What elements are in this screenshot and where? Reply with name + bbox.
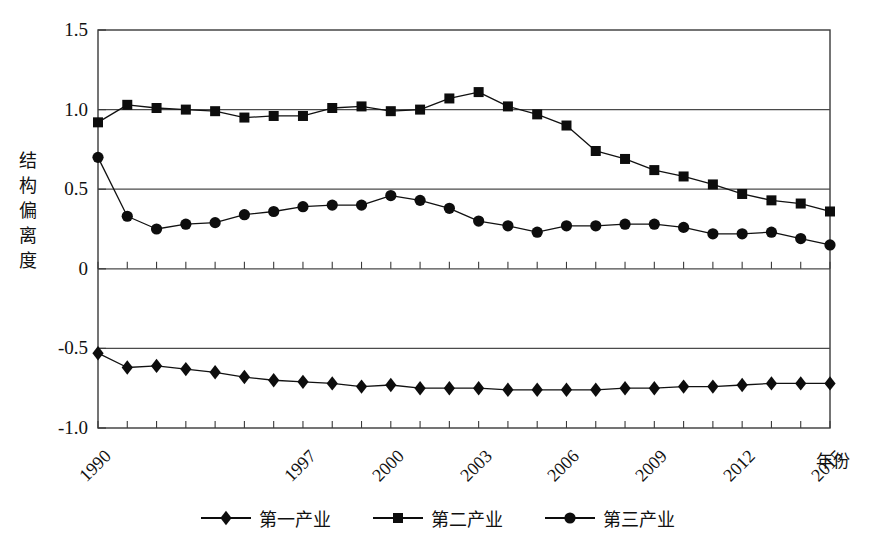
circle-marker [92, 152, 103, 163]
diamond-marker [385, 378, 396, 392]
diamond-marker [180, 362, 191, 376]
diamond-marker [414, 381, 425, 395]
circle-marker [210, 217, 221, 228]
square-marker [679, 171, 689, 181]
square-marker [444, 93, 454, 103]
diamond-marker [220, 511, 231, 525]
circle-marker [356, 200, 367, 211]
circle-marker [649, 219, 660, 230]
circle-marker [707, 228, 718, 239]
square-marker [649, 165, 659, 175]
legend-label: 第二产业 [431, 505, 503, 531]
diamond-marker [766, 376, 777, 390]
diamond-marker [268, 373, 279, 387]
diamond-marker [561, 383, 572, 397]
legend-item-2[interactable]: 第二产业 [371, 505, 503, 531]
circle-marker [180, 219, 191, 230]
chart-figure: 结构偏离度 1.51.00.50-0.5-1.0 199019972000200… [0, 0, 874, 547]
circle-marker [268, 206, 279, 217]
diamond-marker [239, 370, 250, 384]
square-marker [766, 195, 776, 205]
diamond-marker [795, 376, 806, 390]
circle-marker [239, 209, 250, 220]
diamond-legend-icon [199, 508, 253, 528]
square-marker [474, 87, 484, 97]
plot-area [0, 0, 874, 547]
square-marker [122, 100, 132, 110]
circle-legend-icon [543, 508, 597, 528]
square-marker [152, 103, 162, 113]
circle-marker [122, 211, 133, 222]
chart-legend: 第一产业第二产业第三产业 [0, 505, 874, 531]
square-marker [298, 111, 308, 121]
diamond-marker [532, 383, 543, 397]
circle-marker [795, 233, 806, 244]
circle-marker [385, 190, 396, 201]
legend-item-3[interactable]: 第三产业 [543, 505, 675, 531]
diamond-marker [707, 379, 718, 393]
series-line [98, 353, 830, 390]
circle-marker [327, 200, 338, 211]
circle-marker [766, 227, 777, 238]
circle-marker [824, 239, 835, 250]
square-marker [327, 103, 337, 113]
diamond-marker [824, 376, 835, 390]
square-legend-icon [371, 508, 425, 528]
square-marker [503, 101, 513, 111]
diamond-marker [678, 379, 689, 393]
diamond-marker [297, 375, 308, 389]
diamond-marker [327, 376, 338, 390]
circle-marker [561, 220, 572, 231]
circle-marker [590, 220, 601, 231]
square-marker [591, 146, 601, 156]
diamond-marker [590, 383, 601, 397]
series-line [98, 157, 830, 245]
square-marker [532, 109, 542, 119]
circle-marker [678, 222, 689, 233]
square-marker [393, 513, 403, 523]
circle-marker [151, 223, 162, 234]
circle-marker [532, 227, 543, 238]
legend-label: 第三产业 [603, 505, 675, 531]
square-marker [93, 117, 103, 127]
circle-marker [619, 219, 630, 230]
circle-marker [473, 215, 484, 226]
diamond-marker [356, 379, 367, 393]
square-marker [561, 121, 571, 131]
square-marker [386, 106, 396, 116]
square-marker [620, 154, 630, 164]
diamond-marker [619, 381, 630, 395]
diamond-marker [502, 383, 513, 397]
series-3 [92, 152, 835, 251]
diamond-marker [444, 381, 455, 395]
square-marker [825, 206, 835, 216]
square-marker [796, 199, 806, 209]
series-2 [93, 87, 835, 216]
square-marker [708, 179, 718, 189]
square-marker [357, 101, 367, 111]
diamond-marker [151, 359, 162, 373]
circle-marker [502, 220, 513, 231]
square-marker [737, 189, 747, 199]
square-marker [210, 106, 220, 116]
square-marker [181, 105, 191, 115]
legend-item-1[interactable]: 第一产业 [199, 505, 331, 531]
diamond-marker [210, 365, 221, 379]
series-1 [92, 346, 835, 397]
square-marker [239, 113, 249, 123]
circle-marker [414, 195, 425, 206]
diamond-marker [649, 381, 660, 395]
diamond-marker [122, 360, 133, 374]
legend-label: 第一产业 [259, 505, 331, 531]
square-marker [415, 105, 425, 115]
diamond-marker [473, 381, 484, 395]
circle-marker [297, 201, 308, 212]
square-marker [269, 111, 279, 121]
diamond-marker [737, 378, 748, 392]
circle-marker [444, 203, 455, 214]
plot-frame [98, 30, 830, 428]
circle-marker [564, 512, 575, 523]
circle-marker [737, 228, 748, 239]
